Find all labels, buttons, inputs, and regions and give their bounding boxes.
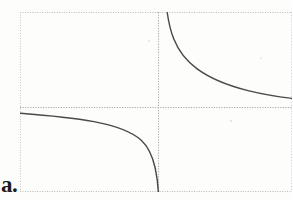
scan-speck bbox=[148, 40, 150, 42]
curve-branch-upper-right bbox=[167, 13, 292, 99]
function-curve bbox=[21, 13, 293, 193]
plot-area bbox=[20, 12, 292, 192]
plot-frame bbox=[20, 12, 292, 192]
axes bbox=[20, 12, 292, 192]
curve-branch-lower-left bbox=[21, 113, 159, 192]
scan-speck bbox=[260, 57, 262, 59]
figure-screenshot: a. bbox=[0, 0, 292, 200]
scan-speck bbox=[230, 120, 232, 122]
graph-svg bbox=[20, 12, 292, 192]
